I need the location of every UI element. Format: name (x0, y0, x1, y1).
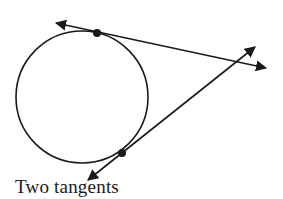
geometry-figure (0, 0, 283, 199)
upper-tangent-point (93, 29, 101, 37)
diagram-canvas: Two tangents (0, 0, 283, 199)
caption: Two tangents (15, 176, 119, 198)
circle (16, 31, 148, 163)
lower-tangent-line (88, 47, 255, 180)
upper-tangent-line (56, 23, 266, 68)
lower-tangent-point (118, 149, 126, 157)
